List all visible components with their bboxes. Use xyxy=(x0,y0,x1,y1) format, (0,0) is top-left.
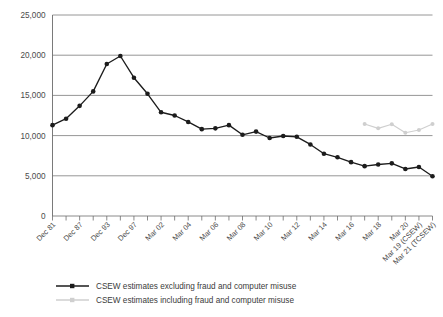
y-tick-label: 5,000 xyxy=(25,172,46,181)
legend-marker-1 xyxy=(70,284,74,288)
data-point-excluding-fraud xyxy=(308,142,313,147)
y-tick-label: 10,000 xyxy=(20,132,45,141)
data-point-excluding-fraud xyxy=(118,54,123,59)
data-point-excluding-fraud xyxy=(254,129,259,134)
chart-background xyxy=(0,0,443,317)
data-point-excluding-fraud xyxy=(227,123,232,128)
y-tick-label: 20,000 xyxy=(20,51,45,60)
chart-container: 05,00010,00015,00020,00025,000 Dec 81Dec… xyxy=(0,0,443,317)
data-point-excluding-fraud xyxy=(267,136,272,141)
data-point-excluding-fraud xyxy=(376,162,381,167)
data-point-excluding-fraud xyxy=(159,110,164,115)
y-tick-label: 15,000 xyxy=(20,91,45,100)
data-point-excluding-fraud xyxy=(132,75,137,80)
data-point-excluding-fraud xyxy=(199,127,204,132)
data-point-excluding-fraud xyxy=(145,91,150,96)
y-tick-label: 0 xyxy=(41,212,46,221)
data-point-excluding-fraud xyxy=(403,167,408,172)
data-point-including-fraud xyxy=(417,128,421,132)
data-point-including-fraud xyxy=(431,122,435,126)
data-point-excluding-fraud xyxy=(349,160,354,165)
y-tick-label: 25,000 xyxy=(20,11,45,20)
legend-label-1: CSEW estimates excluding fraud and compu… xyxy=(96,282,297,291)
data-point-excluding-fraud xyxy=(322,151,327,156)
legend-marker-2 xyxy=(70,298,74,302)
data-point-including-fraud xyxy=(376,126,380,130)
legend-label-2: CSEW estimates including fraud and compu… xyxy=(96,296,294,305)
data-point-excluding-fraud xyxy=(389,161,394,166)
data-point-excluding-fraud xyxy=(335,155,340,160)
data-point-excluding-fraud xyxy=(104,62,109,67)
data-point-excluding-fraud xyxy=(294,135,299,140)
data-point-excluding-fraud xyxy=(91,89,96,94)
data-point-excluding-fraud xyxy=(240,133,245,138)
data-point-excluding-fraud xyxy=(430,174,435,179)
data-point-including-fraud xyxy=(403,131,407,135)
data-point-excluding-fraud xyxy=(417,165,422,170)
data-point-excluding-fraud xyxy=(77,104,82,109)
data-point-including-fraud xyxy=(363,122,367,126)
data-point-excluding-fraud xyxy=(172,113,177,118)
data-point-excluding-fraud xyxy=(362,164,367,169)
data-point-excluding-fraud xyxy=(213,126,218,131)
data-point-including-fraud xyxy=(390,122,394,126)
data-point-excluding-fraud xyxy=(50,123,55,128)
line-chart: 05,00010,00015,00020,00025,000 Dec 81Dec… xyxy=(0,0,443,317)
data-point-excluding-fraud xyxy=(186,120,191,125)
data-point-excluding-fraud xyxy=(64,116,69,121)
data-point-excluding-fraud xyxy=(281,134,286,139)
